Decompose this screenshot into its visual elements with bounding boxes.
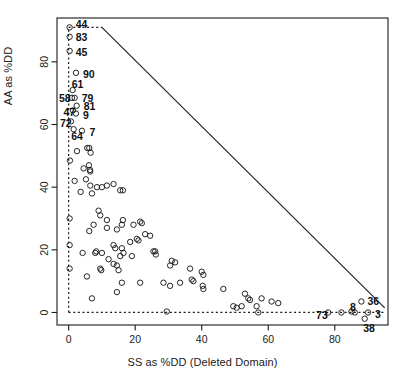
data-point xyxy=(74,148,79,153)
point-label: 45 xyxy=(76,46,88,58)
data-point xyxy=(91,222,96,227)
data-point xyxy=(118,253,123,258)
data-point xyxy=(84,274,89,279)
data-point xyxy=(187,266,192,271)
data-point xyxy=(131,222,136,227)
data-point xyxy=(177,280,182,285)
data-point xyxy=(167,263,172,268)
point-label: 7 xyxy=(89,126,95,138)
y-tick-label: 0 xyxy=(39,309,51,315)
data-point xyxy=(201,286,206,291)
data-point xyxy=(116,267,121,272)
data-point xyxy=(88,183,93,188)
data-point xyxy=(67,266,72,271)
data-point xyxy=(78,189,83,194)
point-label: 3 xyxy=(375,308,381,320)
y-tick-label: 80 xyxy=(39,56,51,68)
data-point xyxy=(106,257,111,262)
data-point xyxy=(99,250,104,255)
x-tick-label: 80 xyxy=(329,333,341,345)
scatter-plot-figure: 0204060800204060804483459061587981479726… xyxy=(0,0,405,380)
point-label: 36 xyxy=(367,295,379,307)
data-point xyxy=(72,178,77,183)
point-label: 72 xyxy=(60,117,72,129)
data-point xyxy=(164,309,169,314)
data-point xyxy=(104,225,109,230)
data-point xyxy=(73,70,78,75)
x-tick-label: 0 xyxy=(66,333,72,345)
data-point xyxy=(259,296,264,301)
y-tick-label: 60 xyxy=(39,119,51,131)
y-axis-label: AA as %DD xyxy=(2,16,18,136)
diagonal-boundary xyxy=(102,27,385,307)
data-point xyxy=(167,283,172,288)
x-axis-label: SS as %DD (Deleted Domain) xyxy=(0,356,405,368)
data-point xyxy=(221,286,226,291)
data-point xyxy=(87,228,92,233)
point-label: 58 xyxy=(59,92,71,104)
plot-canvas: 0204060800204060804483459061587981479726… xyxy=(0,0,405,380)
data-point xyxy=(80,250,85,255)
data-point xyxy=(104,183,109,188)
data-point xyxy=(161,280,166,285)
y-tick-label: 20 xyxy=(39,244,51,256)
x-tick-label: 60 xyxy=(262,333,274,345)
point-label: 90 xyxy=(83,68,95,80)
data-point xyxy=(362,316,367,321)
data-point xyxy=(99,267,104,272)
data-point xyxy=(83,177,88,182)
data-point xyxy=(127,239,132,244)
point-labels-group: 44834590615879814797264773833638 xyxy=(59,18,381,334)
data-point xyxy=(119,280,124,285)
data-point xyxy=(111,181,116,186)
data-point xyxy=(254,304,259,309)
data-point xyxy=(114,227,119,232)
point-label: 83 xyxy=(76,31,88,43)
data-points-group xyxy=(67,25,371,322)
point-label: 9 xyxy=(83,109,89,121)
data-point xyxy=(94,249,99,254)
point-label: 44 xyxy=(76,18,88,30)
data-point xyxy=(67,48,72,53)
data-point xyxy=(111,261,116,266)
data-point xyxy=(359,299,364,304)
point-label: 38 xyxy=(363,322,375,334)
point-label: 61 xyxy=(72,78,84,90)
data-point xyxy=(81,166,86,171)
plot-frame xyxy=(57,18,388,325)
data-point xyxy=(137,280,142,285)
data-point xyxy=(172,260,177,265)
data-point xyxy=(89,191,94,196)
data-point xyxy=(67,34,72,39)
point-label: 73 xyxy=(316,309,328,321)
data-point xyxy=(276,300,281,305)
x-tick-label: 40 xyxy=(196,333,208,345)
data-point xyxy=(67,242,72,247)
data-point xyxy=(147,233,152,238)
x-tick-label: 20 xyxy=(129,333,141,345)
point-label: 64 xyxy=(71,130,83,142)
data-point xyxy=(121,250,126,255)
point-label: 8 xyxy=(350,301,356,313)
y-tick-label: 40 xyxy=(39,181,51,193)
data-point xyxy=(269,299,274,304)
data-point xyxy=(104,217,109,222)
data-point xyxy=(114,289,119,294)
data-point xyxy=(98,213,103,218)
data-point xyxy=(67,216,72,221)
data-point xyxy=(129,253,134,258)
data-point xyxy=(234,305,239,310)
data-point xyxy=(231,304,236,309)
data-point xyxy=(89,296,94,301)
